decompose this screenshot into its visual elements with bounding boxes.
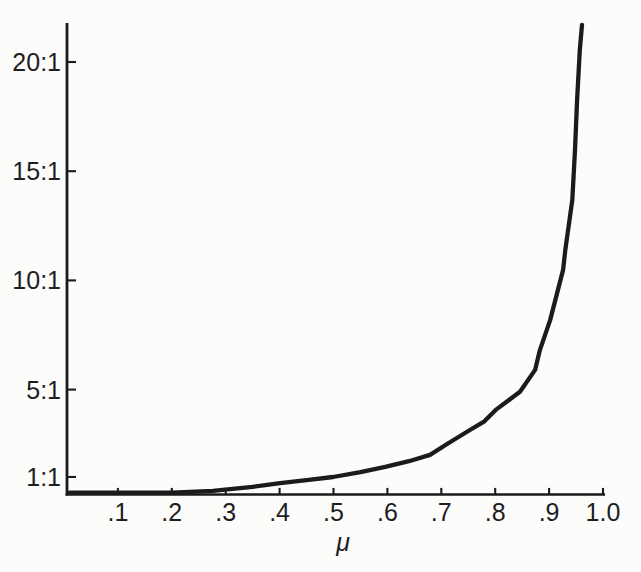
y-tick-label: 1:1 <box>26 463 61 491</box>
x-tick-label: .2 <box>161 498 182 526</box>
x-tick-label: .3 <box>215 498 236 526</box>
y-tick-label: 20:1 <box>12 48 61 76</box>
y-tick-label: 10:1 <box>12 266 61 294</box>
curve-path <box>69 25 582 493</box>
x-tick-label: 1.0 <box>586 498 621 526</box>
x-tick-label: .7 <box>431 498 452 526</box>
x-tick-label: .1 <box>107 498 128 526</box>
y-tick-label: 15:1 <box>12 157 61 185</box>
figure: .1.2.3.4.5.6.7.8.91.01:15:110:115:120:1μ <box>0 0 641 572</box>
x-tick-label: .4 <box>269 498 290 526</box>
x-tick-label: .8 <box>485 498 506 526</box>
x-axis-label: μ <box>335 528 350 556</box>
line-chart: .1.2.3.4.5.6.7.8.91.01:15:110:115:120:1μ <box>0 0 641 572</box>
x-tick-label: .5 <box>323 498 344 526</box>
x-tick-label: .6 <box>377 498 398 526</box>
x-tick-label: .9 <box>539 498 560 526</box>
y-tick-label: 5:1 <box>26 376 61 404</box>
